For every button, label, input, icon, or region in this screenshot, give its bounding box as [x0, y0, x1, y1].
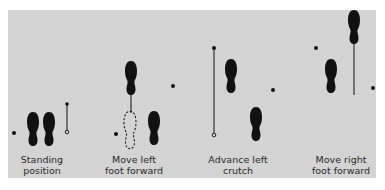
- caption-standing: Standing position: [21, 154, 63, 176]
- crutch-icon: [65, 102, 69, 134]
- left-footprint-icon: [27, 112, 39, 146]
- right-crutch-dot-icon: [12, 131, 16, 135]
- caption-line: Move right: [312, 154, 370, 165]
- right-footprint-icon: [43, 112, 55, 146]
- caption-move-left-foot: Move left foot forward: [105, 154, 163, 176]
- caption-line: Move left: [105, 154, 163, 165]
- caption-line: Standing: [21, 154, 63, 165]
- right-footprint-icon: [148, 111, 160, 145]
- caption-move-right-foot: Move right foot forward: [312, 154, 370, 176]
- caption-advance-left-crutch: Advance left crutch: [208, 154, 267, 176]
- caption-line: Advance left: [208, 154, 267, 165]
- left-footprint-icon: [225, 59, 237, 93]
- step-standing: [12, 102, 69, 146]
- right-footprint-forward-icon: [348, 10, 360, 44]
- right-footprint-icon: [250, 107, 262, 141]
- crutch-gait-diagram: Standing position Move left foot forward…: [0, 0, 385, 190]
- step-advance-left-crutch: [212, 46, 275, 141]
- caption-line: crutch: [208, 165, 267, 176]
- right-crutch-dot-icon: [371, 86, 375, 90]
- step-move-left-foot: [114, 61, 175, 149]
- left-crutch-dot-icon: [314, 46, 318, 50]
- right-crutch-dot-icon: [271, 88, 275, 92]
- left-footprint-previous-outline-icon: [124, 111, 136, 148]
- left-crutch-dot-icon: [114, 132, 118, 136]
- right-crutch-dot-icon: [171, 84, 175, 88]
- left-crutch-advance-icon: [212, 46, 216, 137]
- left-footprint-forward-icon: [125, 61, 137, 95]
- caption-line: position: [21, 165, 63, 176]
- step-move-right-foot: [314, 10, 375, 95]
- caption-line: foot forward: [105, 165, 163, 176]
- caption-line: foot forward: [312, 165, 370, 176]
- left-footprint-icon: [325, 59, 337, 93]
